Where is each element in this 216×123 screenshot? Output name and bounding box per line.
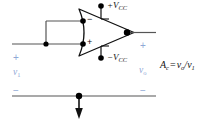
inverting-input-sign: −	[87, 15, 92, 24]
output-signal-label: vo	[139, 66, 146, 76]
ground-arrow-head	[75, 108, 83, 119]
node-dot-input-junction	[43, 41, 48, 46]
input-port-plus-sign: +	[13, 53, 19, 63]
node-dot-ground-junction	[76, 93, 82, 99]
node-dot-inverting-input	[80, 18, 86, 24]
input-signal-label: v1	[13, 68, 20, 78]
noninverting-input-sign: +	[87, 38, 92, 47]
node-dot-negative-supply	[98, 55, 104, 61]
node-dot-noninverting-input	[80, 41, 86, 47]
output-port-plus-sign: +	[140, 41, 146, 51]
input-port-minus-sign: −	[13, 86, 19, 96]
node-dot-positive-supply	[98, 3, 104, 9]
gain-formula: Ac=vo/v1	[160, 60, 195, 71]
positive-supply-label: +VCC	[107, 1, 127, 11]
output-port-minus-sign: −	[140, 86, 146, 96]
negative-supply-label: −VCC	[107, 53, 127, 63]
node-dot-output	[124, 29, 130, 35]
figure-canvas: +VCC −VCC − + + v1 − + vo − Ac=vo/v1	[0, 0, 216, 123]
